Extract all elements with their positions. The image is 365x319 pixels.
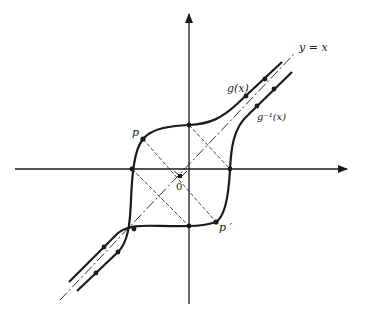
- ginv-y-intercept: [187, 224, 192, 229]
- label-identity-line: y = x: [298, 41, 328, 54]
- origin-marker: [178, 174, 182, 178]
- label-g: g(x): [227, 82, 249, 95]
- label-p-prime: p ′: [219, 221, 233, 234]
- ginv-x-intercept: [228, 167, 233, 172]
- label-origin: 0: [176, 181, 182, 192]
- g-dot-lower: [116, 250, 121, 255]
- label-p: p: [132, 126, 139, 139]
- identity-line: [60, 54, 294, 300]
- ginv-dot-lower: [132, 227, 137, 232]
- inverse-function-diagram: y = x g(x) g⁻¹(x) p p ′ 0: [0, 0, 365, 319]
- ginv-dot-upper: [255, 104, 260, 109]
- label-g-inverse: g⁻¹(x): [257, 111, 286, 122]
- reflection-segment-3: [189, 125, 230, 169]
- g-x-intercept: [130, 167, 135, 172]
- ginv-dot-lower-2: [102, 245, 107, 250]
- ginv-dot-upper-2: [272, 87, 277, 92]
- point-p-prime: [213, 219, 218, 224]
- g-y-intercept: [187, 123, 192, 128]
- g-dot-lower-2: [94, 271, 99, 276]
- g-dot-upper-2: [263, 77, 268, 82]
- point-p: [140, 136, 145, 141]
